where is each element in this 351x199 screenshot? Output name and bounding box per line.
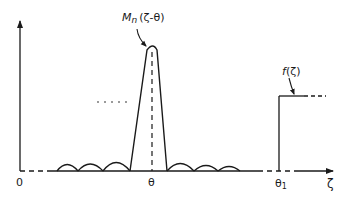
theta1-label: θ1: [275, 177, 287, 191]
ellipsis-dots: [97, 101, 127, 103]
kernel-label: Mn(ζ-θ): [122, 11, 164, 25]
step-function-label: f(ζ): [282, 65, 300, 78]
diagram-canvas: Mn(ζ-θ) f(ζ) 0 θ θ1 ζ: [0, 0, 351, 199]
step-function: [279, 96, 326, 171]
side-lobes-right: [167, 164, 240, 172]
f-callout-arrow: [289, 78, 294, 94]
zeta-axis-label: ζ: [327, 177, 334, 191]
theta-label: θ: [148, 176, 155, 189]
mn-callout-arrow: [137, 29, 146, 46]
side-lobes-left: [57, 163, 130, 172]
main-lobe: [130, 46, 167, 171]
origin-label: 0: [16, 176, 23, 189]
